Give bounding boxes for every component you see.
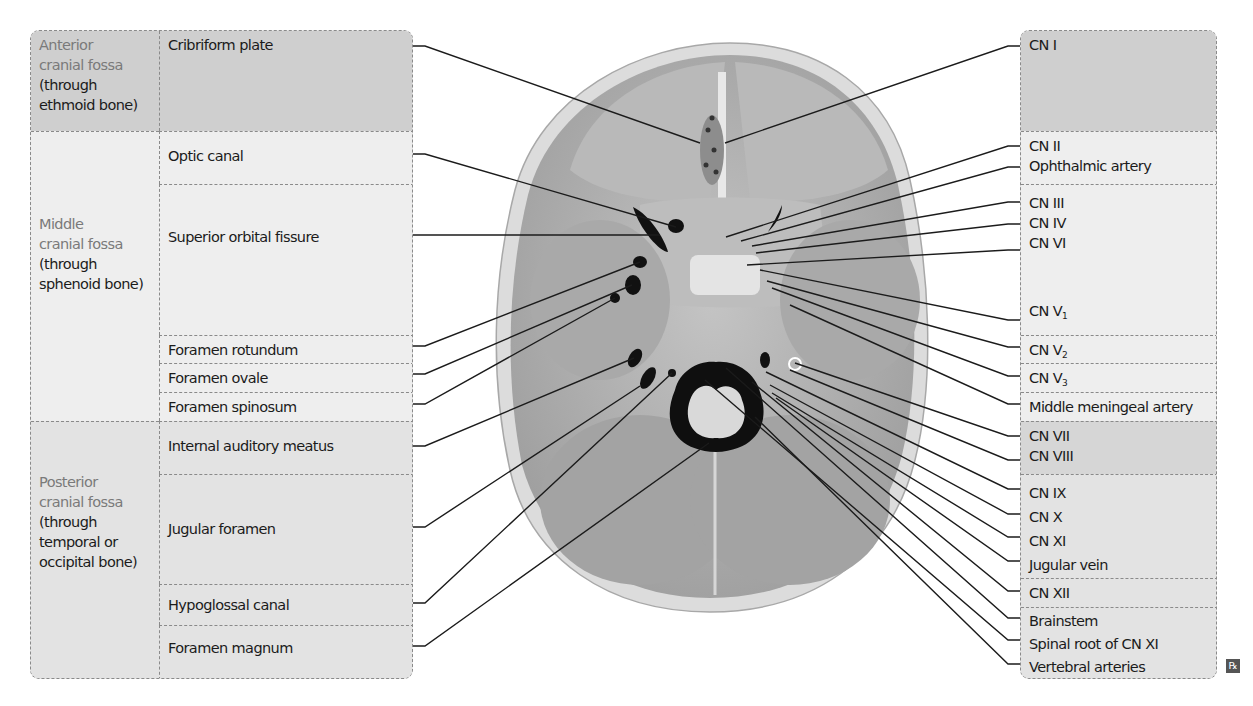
region-posterior-cranial-fossa: Posterior cranial fossa (through tempora… — [31, 421, 159, 679]
opening-optic-canal: Optic canal — [159, 131, 413, 184]
region-middle-cranial-fossa: Middle cranial fossa (through sphenoid b… — [31, 131, 159, 421]
group-jugular-foramen-contents: CN IX CN X CN XI Jugular vein — [1021, 474, 1217, 578]
opening-cribriform-plate: Cribriform plate — [159, 31, 413, 131]
cn-v1-label: CN V1 — [1029, 301, 1210, 326]
opening-jugular-foramen: Jugular foramen — [159, 474, 413, 584]
group-cn-v2: CN V2 — [1021, 335, 1217, 363]
rx-badge-icon: ℞ — [1226, 659, 1240, 673]
group-superior-orbital-fissure-contents: CN III CN IV CN VI CN V1 — [1021, 184, 1217, 335]
cn-v3-label: CN V3 — [1029, 368, 1210, 393]
group-middle-meningeal-artery: Middle meningeal artery — [1021, 392, 1217, 421]
group-foramen-magnum-contents: Brainstem Spinal root of CN XI Vertebral… — [1021, 607, 1217, 679]
opening-hypoglossal-canal: Hypoglossal canal — [159, 584, 413, 625]
region-anterior-cranial-fossa: Anterior cranial fossa (through ethmoid … — [31, 31, 159, 131]
group-cn-i: CN I — [1021, 31, 1217, 131]
structures-table: CN I CN II Ophthalmic artery CN III CN I… — [1020, 30, 1217, 679]
opening-foramen-ovale: Foramen ovale — [159, 363, 413, 392]
foramina-table: Anterior cranial fossa (through ethmoid … — [30, 30, 413, 679]
opening-superior-orbital-fissure: Superior orbital fissure — [159, 184, 413, 335]
opening-foramen-rotundum: Foramen rotundum — [159, 335, 413, 363]
cn-v2-label: CN V2 — [1029, 340, 1210, 365]
group-cn-xii: CN XII — [1021, 578, 1217, 607]
opening-internal-auditory-meatus: Internal auditory meatus — [159, 421, 413, 474]
group-cn-v3: CN V3 — [1021, 363, 1217, 392]
opening-foramen-spinosum: Foramen spinosum — [159, 392, 413, 421]
group-cn-ii: CN II Ophthalmic artery — [1021, 131, 1217, 184]
opening-foramen-magnum: Foramen magnum — [159, 625, 413, 679]
group-cn-vii-viii: CN VII CN VIII — [1021, 421, 1217, 474]
